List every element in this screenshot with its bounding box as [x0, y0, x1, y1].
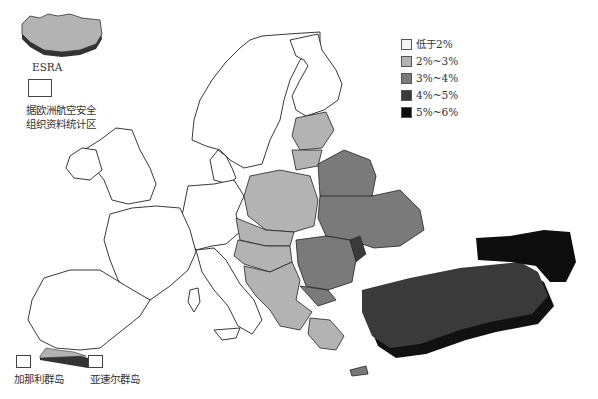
legend-item-4-5: 4%~5% — [401, 87, 458, 103]
esra-label: ESRA — [32, 61, 62, 74]
legend-item-3-4: 3%~4% — [401, 70, 458, 86]
legend-swatch — [401, 90, 412, 101]
legend-swatch — [401, 39, 412, 50]
legend-label: 低于2% — [416, 39, 453, 50]
iceland-region — [22, 14, 102, 57]
esra-box — [28, 79, 52, 97]
western-europe-region — [28, 128, 262, 350]
legend-item-2-3: 2%~3% — [401, 53, 458, 69]
europe-map — [0, 0, 598, 399]
legend-swatch — [401, 56, 412, 67]
legend-label: 5%~6% — [416, 107, 458, 118]
legend-label: 2%~3% — [416, 56, 458, 67]
map-legend: 低于2% 2%~3% 3%~4% 4%~5% 5%~6% — [401, 36, 458, 121]
azores-box — [88, 355, 103, 368]
legend-label: 4%~5% — [416, 90, 458, 101]
turkey-region — [362, 262, 554, 358]
canary-islands-inset — [38, 346, 90, 376]
legend-swatch — [401, 107, 412, 118]
legend-swatch — [401, 73, 412, 84]
legend-item-below-2: 低于2% — [401, 36, 458, 52]
legend-label: 3%~4% — [416, 73, 458, 84]
legend-item-5-6: 5%~6% — [401, 104, 458, 120]
canary-islands-box — [16, 355, 31, 368]
esra-description-line1: 据欧洲航空安全 — [26, 104, 96, 117]
azores-label: 亚速尔群岛 — [90, 373, 140, 386]
esra-description-line2: 组织资料统计区 — [26, 118, 96, 131]
